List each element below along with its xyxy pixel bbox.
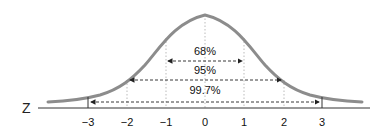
normal-distribution-diagram: 68% 95% 99.7% Z −3 −2 −1 0 1 2 3	[0, 0, 387, 135]
tick-label: −1	[160, 116, 173, 128]
tick-label: 0	[202, 116, 208, 128]
axis-label-z: Z	[22, 100, 31, 116]
tick-label: −3	[82, 116, 95, 128]
tick-label: 3	[319, 116, 325, 128]
label-997: 99.7%	[189, 84, 220, 96]
tick-labels: −3 −2 −1 0 1 2 3	[82, 116, 325, 128]
label-95: 95%	[194, 64, 216, 76]
label-68: 68%	[194, 45, 216, 57]
tick-label: 2	[281, 116, 287, 128]
tick-label: 1	[241, 116, 247, 128]
tick-label: −2	[121, 116, 134, 128]
